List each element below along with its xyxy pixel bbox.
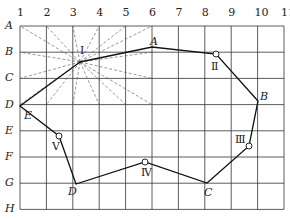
row-label: F [5, 151, 13, 162]
sighting-ray [73, 26, 80, 62]
sighting-ray [80, 62, 126, 105]
column-label: 1 [17, 7, 24, 18]
row-label: D [5, 99, 14, 110]
point-label: D [68, 186, 77, 197]
station-label: Ⅳ [141, 167, 152, 178]
grid-lines [20, 26, 284, 209]
sighting-rays [20, 26, 152, 105]
column-label: 2 [43, 7, 50, 18]
column-label: 11 [281, 7, 290, 18]
sighting-ray [80, 62, 152, 78]
station-marker [142, 159, 148, 165]
sighting-ray [73, 62, 80, 105]
sighting-ray [80, 52, 152, 62]
row-label: A [5, 20, 13, 31]
column-label: 3 [70, 7, 77, 18]
station-marker [56, 133, 62, 139]
point-label: C [204, 187, 212, 198]
station-label: Ⅲ [235, 134, 246, 145]
column-label: 5 [123, 7, 130, 18]
row-label: B [5, 46, 13, 57]
column-label: 8 [202, 7, 209, 18]
row-label: E [5, 125, 13, 136]
station-circles [56, 51, 252, 165]
column-label: 9 [228, 7, 235, 18]
column-label: 10 [255, 7, 269, 18]
point-label: E [24, 110, 32, 121]
column-label: 4 [96, 7, 103, 18]
station-marker [213, 51, 219, 57]
sighting-ray [80, 62, 99, 105]
column-label: 7 [175, 7, 182, 18]
sighting-ray [80, 62, 152, 105]
sighting-ray [20, 62, 80, 78]
row-label: C [5, 72, 13, 83]
traverse-diagram [0, 0, 290, 219]
center-label: Ⅰ [80, 45, 84, 56]
sighting-ray [20, 52, 80, 62]
row-label: H [5, 203, 15, 214]
point-label: B [260, 91, 268, 102]
point-label: A [150, 36, 158, 47]
station-label: Ⅴ [52, 141, 60, 152]
station-marker [246, 143, 252, 149]
sighting-ray [80, 26, 152, 62]
traverse-path [20, 47, 258, 184]
column-label: 6 [149, 7, 156, 18]
sighting-ray [46, 26, 80, 62]
sighting-ray [20, 26, 80, 62]
station-label: Ⅱ [211, 61, 218, 72]
row-label: G [5, 177, 14, 188]
